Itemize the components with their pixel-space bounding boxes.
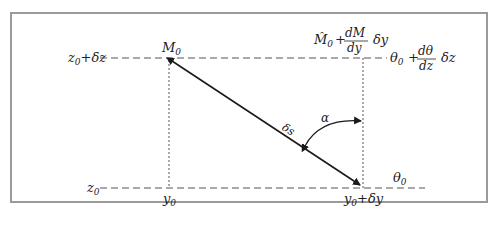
svg-text:dM: dM [345,26,366,40]
svg-text:dy: dy [347,41,362,55]
svg-text:δy: δy [373,32,389,47]
ds-vector [172,61,360,185]
svg-text:dz: dz [419,59,434,73]
label-theta-expression: θ0 + dθ dz δz [390,44,456,73]
svg-text:dθ: dθ [418,44,434,58]
svg-text:M̂0: M̂0 [313,32,333,49]
svg-text:θ0: θ0 [390,50,404,67]
label-y0-plus-dy: y0+δy [343,191,384,208]
label-theta0-bottom: θ0 [393,170,407,187]
label-z-bottom: z0 [86,180,100,197]
alpha-arc [305,121,361,146]
label-alpha: α [321,111,329,125]
label-m0: M0 [161,40,181,57]
label-y0: y0 [162,191,176,208]
svg-text:δz: δz [441,50,456,65]
label-z-top: z0+δz [67,50,106,67]
label-m-hat-expression: M̂0 + dM dy δy [313,26,389,55]
label-ds: δs [280,121,297,139]
diagram-canvas: z0+δz z0 M0 y0 y0+δy θ0 M̂0 + dM dy δy θ… [0,0,501,229]
